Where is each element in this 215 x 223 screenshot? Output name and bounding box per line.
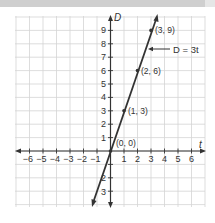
- point-1-3: [122, 109, 126, 113]
- equation-label: D = 3t: [173, 44, 199, 55]
- x-tick-label: −5: [36, 154, 46, 164]
- x-tick-label: 2: [135, 154, 140, 164]
- y-tick-label: 4: [101, 92, 106, 102]
- point-label: (2, 6): [141, 66, 161, 76]
- point-3-9: [149, 29, 153, 33]
- y-axis-up-arrow-icon: [108, 15, 113, 21]
- line-top-arrow-icon: [154, 14, 159, 22]
- point-2-6: [136, 69, 140, 73]
- y-tick-label: 3: [101, 106, 106, 116]
- x-tick-label: −1: [90, 154, 100, 164]
- x-tick-label: 5: [175, 154, 180, 164]
- x-tick-label: 6: [189, 154, 194, 164]
- x-axis-label: t: [199, 139, 203, 150]
- annotation-arrow-icon: [148, 47, 153, 51]
- y-tick-label: 5: [101, 79, 106, 89]
- y-tick-label: 6: [101, 66, 106, 76]
- x-tick-label: 1: [121, 154, 126, 164]
- y-tick-label: 3: [101, 187, 106, 197]
- coordinate-plane: −6 −5 −4 −3 −2 −1 1 2 3 4 5 6 1 2 3 4 5 …: [0, 0, 215, 223]
- point-0-0: [109, 149, 113, 153]
- y-tick-label: 8: [101, 39, 106, 49]
- equation-annotation: D = 3t: [148, 44, 199, 55]
- x-tick-label: 3: [148, 154, 153, 164]
- y-tick-label: 9: [101, 25, 106, 35]
- y-tick-label: 7: [101, 52, 106, 62]
- point-label: (3, 9): [155, 25, 175, 35]
- x-tick-label: −2: [77, 154, 87, 164]
- x-tick-label: −4: [50, 154, 60, 164]
- point-label: (1, 3): [128, 106, 148, 116]
- y-axis-label: D: [114, 12, 121, 23]
- x-tick-label: −3: [63, 154, 73, 164]
- x-tick-label: −6: [23, 154, 33, 164]
- y-tick-label: 2: [101, 119, 106, 129]
- line-bottom-arrow-icon: [92, 199, 97, 207]
- point-label: (0, 0): [116, 138, 136, 148]
- y-tick-label: 1: [101, 133, 106, 143]
- x-tick-label: 4: [162, 154, 167, 164]
